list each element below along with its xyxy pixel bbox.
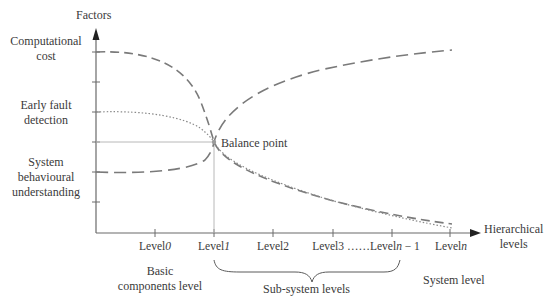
- y-axis-arrow-icon: [93, 28, 100, 40]
- sbu-label-line3: understanding: [0, 185, 92, 200]
- basic-label-line1: Basic: [110, 264, 210, 279]
- subsystem-brace: [214, 260, 400, 282]
- tick-leveln: Leveln: [435, 240, 467, 252]
- basic-label-line2: components level: [110, 279, 210, 294]
- early-fault-label-line2: detection: [3, 113, 89, 128]
- tick-level1: Level1: [198, 240, 230, 252]
- x-axis-label: Hierarchical levels: [484, 222, 543, 252]
- computational-cost-label-line1: Computational: [3, 34, 89, 49]
- x-axis-label-line1: Hierarchical: [484, 222, 543, 237]
- computational-cost-label-line2: cost: [3, 49, 89, 64]
- early-fault-label-line1: Early fault: [3, 98, 89, 113]
- balance-point-label: Balance point: [221, 136, 287, 151]
- sbu-label-line1: System: [0, 155, 92, 170]
- sbu-label-line2: behavioural: [0, 170, 92, 185]
- early-fault-detection-label: Early fault detection: [3, 98, 89, 128]
- tick-level2: Level2: [257, 240, 289, 252]
- y-axis-label: Factors: [76, 8, 111, 23]
- x-axis-arrow-icon: [470, 229, 481, 237]
- subsystem-levels-label: Sub-system levels: [263, 282, 350, 297]
- x-axis-label-line2: levels: [484, 237, 543, 252]
- basic-components-level-label: Basic components level: [110, 264, 210, 294]
- early-fault-detection-curve: [96, 112, 452, 228]
- system-behavioural-understanding-curve: [96, 50, 452, 173]
- system-level-label: System level: [423, 273, 485, 288]
- system-behavioural-understanding-label: System behavioural understanding: [0, 155, 92, 200]
- computational-cost-label: Computational cost: [3, 34, 89, 64]
- tick-level0: Level0: [139, 240, 171, 252]
- balance-point-marker: [212, 140, 216, 144]
- tick-level3-to-n-minus-1: Level3 ……Leveln − 1: [312, 240, 420, 252]
